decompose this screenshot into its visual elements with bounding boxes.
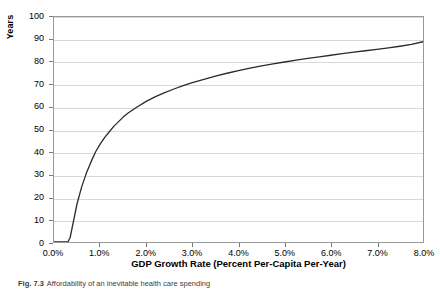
- x-axis-tick-label: 3.0%: [169, 249, 215, 258]
- x-axis-tick-mark: [285, 243, 286, 247]
- y-axis-tick-label: 10: [0, 216, 44, 225]
- figure-caption-label: Fig. 7.3: [18, 279, 44, 288]
- plot-area: [53, 16, 424, 243]
- x-axis-tick-label: 4.0%: [216, 249, 262, 258]
- x-axis-tick-label: 8.0%: [401, 249, 440, 258]
- x-axis-tick-mark: [192, 243, 193, 247]
- x-axis-tick-mark: [331, 243, 332, 247]
- figure-container: Years 0102030405060708090100 0.0%1.0%2.0…: [0, 0, 440, 290]
- data-line-curve: [54, 17, 423, 242]
- y-axis-tick-label: 20: [0, 193, 44, 202]
- x-axis-tick-label: 7.0%: [355, 249, 401, 258]
- x-axis-tick-label: 0.0%: [30, 249, 76, 258]
- y-axis-tick-label: 80: [0, 57, 44, 66]
- y-axis-tick-label: 30: [0, 170, 44, 179]
- figure-caption-text: Affordability of an inevitable health ca…: [47, 279, 210, 288]
- x-axis-title: GDP Growth Rate (Percent Per-Capita Per-…: [53, 258, 424, 269]
- x-axis-tick-mark: [378, 243, 379, 247]
- y-axis-tick-label: 50: [0, 125, 44, 134]
- y-axis-tick-label: 60: [0, 102, 44, 111]
- y-axis-tick-label: 90: [0, 34, 44, 43]
- y-axis-tick-label: 40: [0, 148, 44, 157]
- x-axis-tick-label: 6.0%: [308, 249, 354, 258]
- x-axis-tick-label: 2.0%: [123, 249, 169, 258]
- x-axis-tick-mark: [99, 243, 100, 247]
- figure-caption: Fig. 7.3Affordability of an inevitable h…: [18, 279, 438, 288]
- x-axis-tick-label: 5.0%: [262, 249, 308, 258]
- x-axis-tick-mark: [239, 243, 240, 247]
- x-axis-tick-mark: [146, 243, 147, 247]
- y-axis-tick-label: 0: [0, 239, 44, 248]
- y-axis-tick-mark: [49, 243, 53, 244]
- y-axis-tick-label: 100: [0, 12, 44, 21]
- y-axis-title: Years: [5, 0, 15, 54]
- x-axis-tick-label: 1.0%: [76, 249, 122, 258]
- y-axis-tick-label: 70: [0, 80, 44, 89]
